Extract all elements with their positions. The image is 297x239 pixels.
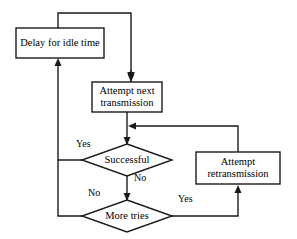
node-attempt-retransmission-shape[interactable] [196,152,280,184]
arrowhead-into-retransmission [235,185,242,193]
node-successful-shape[interactable] [82,144,172,176]
node-attempt-next-shape[interactable] [92,82,162,112]
node-more-tries-shape[interactable] [82,200,172,232]
node-delay-shape[interactable] [16,28,104,58]
flowchart-diagram: Delay for idle time Attempt next transmi… [0,0,297,239]
edge-more-tries-yes [172,190,238,216]
edge-retransmission-to-successful [131,126,238,152]
arrowhead-into-delay [55,58,62,66]
arrowhead-into-successful-junction [128,123,136,130]
flowchart-canvas [0,0,297,239]
nodes-layer [16,28,280,232]
arrowhead-into-attempt-next [128,74,135,82]
